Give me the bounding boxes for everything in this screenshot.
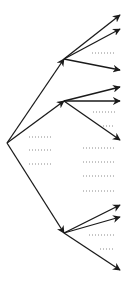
tree-edges [7,15,120,270]
arrow-A-leaf-3 [64,59,120,70]
arrow-root-to-A [7,59,64,143]
arrow-root-to-C [7,143,64,233]
arrow-A-leaf-2 [64,29,120,59]
arrow-B-leaf-3 [64,101,120,140]
tree-diagram [0,0,130,287]
arrow-C-leaf-3 [64,233,120,270]
arrow-A-leaf-1 [64,15,120,59]
dotted-placeholders [29,53,115,249]
arrow-B-leaf-1 [64,87,120,101]
